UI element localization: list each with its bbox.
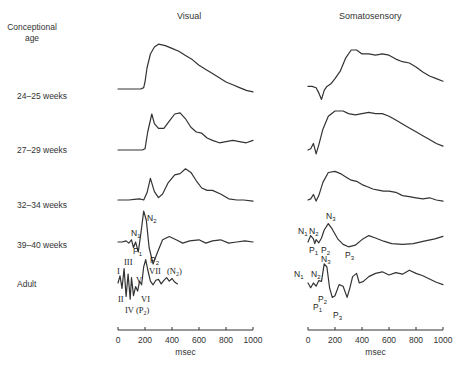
peak-labels-layer: N1P1N2P2IIIIIIIV (P2)VVIVII(N2)N1P1N2P2N… [117, 211, 355, 321]
peak-label-somatosensory-adult-p2: P2 [318, 294, 328, 305]
waveform-somatosensory-24-25-weeks [308, 50, 443, 99]
peak-label-visual-adult-vi: VI [141, 294, 150, 304]
x-tick-label-visual-0: 0 [116, 335, 121, 345]
peak-label-visual-39-40-weeks-p1: P1 [133, 246, 143, 257]
x-tick-label-visual-1000: 1000 [244, 335, 263, 345]
waveform-somatosensory-adult [308, 264, 443, 298]
waveform-visual-27-29-weeks [118, 113, 253, 150]
evoked-potentials-figure: 02004006008001000msec02004006008001000ms… [0, 0, 462, 369]
waveform-visual-24-25-weeks [118, 44, 253, 92]
peak-label-visual-adult-ii: II [118, 294, 124, 304]
peak-label-visual-adult-iii: III [124, 257, 133, 267]
peak-label-visual-adult-v: V [136, 275, 143, 285]
waveform-somatosensory-32-34-weeks [308, 171, 443, 201]
peak-label-visual-adult-i: I [117, 266, 120, 276]
peak-label-somatosensory-adult-n1: N1 [294, 269, 304, 280]
x-tick-label-somatosensory-1000: 1000 [434, 335, 453, 345]
peak-label-visual-adult-iv-p2: IV (P2) [125, 305, 150, 316]
peak-label-somatosensory-39-40-weeks-p1: P1 [309, 245, 319, 256]
x-tick-label-somatosensory-0: 0 [306, 335, 311, 345]
peak-label-visual-39-40-weeks-n1: N1 [131, 228, 141, 239]
x-tick-label-visual-800: 800 [219, 335, 233, 345]
peak-label-somatosensory-39-40-weeks-n2: N2 [309, 226, 319, 237]
waveforms-layer [118, 44, 443, 299]
axes-layer: 02004006008001000msec02004006008001000ms… [116, 327, 453, 357]
waveform-somatosensory-39-40-weeks [308, 224, 443, 247]
peak-label-visual-39-40-weeks-p2: P2 [150, 255, 160, 266]
waveform-somatosensory-27-29-weeks [308, 111, 443, 154]
peak-label-somatosensory-adult-n2: N2 [311, 269, 321, 280]
waveform-visual-32-34-weeks [118, 169, 253, 201]
x-tick-label-somatosensory-800: 800 [409, 335, 423, 345]
peak-label-somatosensory-adult-p3: P3 [333, 310, 343, 321]
x-tick-label-somatosensory-600: 600 [382, 335, 396, 345]
peak-label-somatosensory-39-40-weeks-p3: P3 [345, 250, 355, 261]
x-tick-label-somatosensory-200: 200 [328, 335, 342, 345]
peak-label-somatosensory-39-40-weeks-n1: N1 [298, 226, 308, 237]
x-tick-label-somatosensory-400: 400 [355, 335, 369, 345]
x-tick-label-visual-200: 200 [138, 335, 152, 345]
peak-label-visual-adult-n2: (N2) [167, 266, 182, 277]
x-axis-label-visual: msec [175, 347, 196, 357]
x-tick-label-visual-400: 400 [165, 335, 179, 345]
peak-label-visual-39-40-weeks-n2: N2 [147, 213, 157, 224]
peak-label-somatosensory-39-40-weeks-n3: N3 [326, 211, 336, 222]
x-axis-label-somatosensory: msec [365, 347, 386, 357]
peak-label-visual-adult-vii: VII [149, 266, 161, 276]
x-tick-label-visual-600: 600 [192, 335, 206, 345]
